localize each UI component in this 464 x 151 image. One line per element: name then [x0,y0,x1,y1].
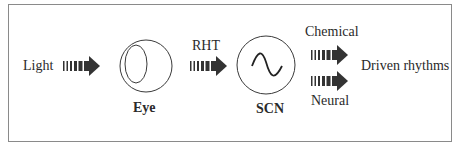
arrow-scn-chemical [311,45,348,65]
edge-label-chemical: Chemical [305,24,359,40]
arrow-scn-neural [311,71,348,91]
node-label-light: Light [23,58,53,74]
arrow-eye-to-scn [190,56,227,76]
node-label-eye: Eye [133,100,156,116]
node-label-driven-rhythms: Driven rhythms [361,58,449,74]
arrow-light-to-eye [63,56,100,76]
edge-label-neural: Neural [311,93,349,109]
node-label-scn: SCN [256,101,284,117]
edge-label-rht: RHT [192,38,220,54]
diagram-graphics [0,0,464,151]
sine-wave-icon [237,36,295,94]
eye-icon [120,40,172,92]
